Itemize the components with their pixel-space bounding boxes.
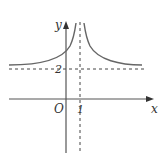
curve-right-branch [84, 23, 142, 65]
function-graph: y x O 1 2 [0, 0, 163, 163]
y-axis-arrow-icon [63, 21, 69, 29]
origin-label: O [54, 102, 64, 116]
y-tick-2: 2 [54, 63, 62, 76]
y-axis-label: y [54, 18, 62, 32]
x-tick-1: 1 [77, 103, 84, 116]
x-axis-label: x [151, 102, 158, 116]
